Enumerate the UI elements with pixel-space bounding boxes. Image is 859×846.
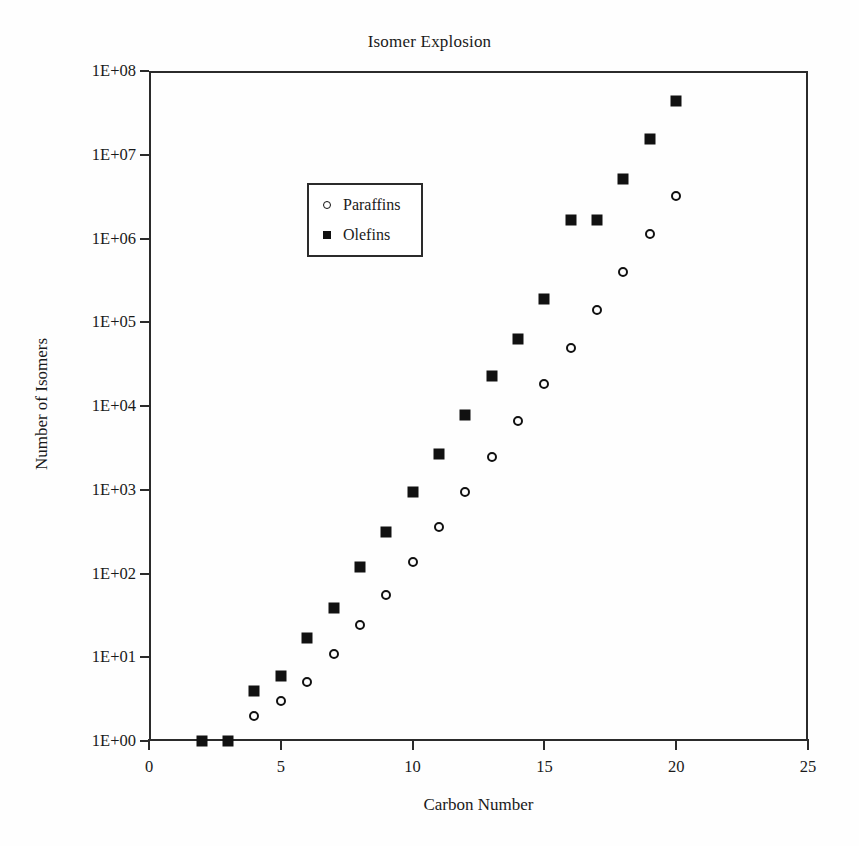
y-tick-label: 1E+05 — [92, 312, 136, 332]
y-axis-title: Number of Isomers — [32, 104, 52, 704]
y-tick-mark — [140, 573, 149, 575]
y-tick-label: 1E+07 — [92, 145, 136, 165]
data-point-paraffins — [434, 522, 444, 532]
data-point-paraffins — [355, 620, 365, 630]
data-point-paraffins — [408, 557, 418, 567]
y-tick-mark — [140, 656, 149, 658]
data-point-olefins — [539, 294, 550, 305]
plot-area: 1E+001E+011E+021E+031E+041E+051E+061E+07… — [149, 71, 808, 741]
axis-line-right — [806, 71, 808, 741]
y-tick-label: 1E+08 — [92, 61, 136, 81]
data-point-olefins — [460, 410, 471, 421]
data-point-paraffins — [329, 649, 339, 659]
data-point-olefins — [381, 527, 392, 538]
data-point-olefins — [671, 96, 682, 107]
data-point-olefins — [513, 334, 524, 345]
data-point-paraffins — [249, 711, 259, 721]
data-point-olefins — [592, 215, 603, 226]
x-tick-label: 10 — [404, 757, 421, 777]
legend-item-paraffins: Paraffins — [319, 193, 400, 217]
data-point-paraffins — [302, 677, 312, 687]
y-tick-label: 1E+04 — [92, 396, 136, 416]
axis-line-top — [149, 71, 808, 73]
data-point-olefins — [249, 685, 260, 696]
data-point-paraffins — [460, 487, 470, 497]
x-tick-mark — [148, 739, 150, 750]
y-tick-label: 1E+06 — [92, 229, 136, 249]
axis-line-left — [149, 71, 151, 741]
y-tick-mark — [140, 405, 149, 407]
axis-line-bottom — [149, 739, 808, 741]
y-tick-mark — [140, 321, 149, 323]
data-point-paraffins — [566, 343, 576, 353]
x-tick-label: 5 — [277, 757, 285, 777]
data-point-paraffins — [487, 452, 497, 462]
x-tick-label: 15 — [536, 757, 553, 777]
y-tick-label: 1E+02 — [92, 564, 136, 584]
legend-label: Olefins — [343, 226, 390, 244]
legend: ParaffinsOlefins — [307, 183, 423, 257]
y-tick-mark — [140, 70, 149, 72]
x-tick-label: 25 — [800, 757, 817, 777]
y-tick-mark — [140, 154, 149, 156]
data-point-paraffins — [539, 379, 549, 389]
filled-square-icon — [319, 231, 335, 239]
open-circle-icon — [319, 201, 335, 209]
data-point-olefins — [302, 632, 313, 643]
data-point-olefins — [407, 487, 418, 498]
x-axis-title: Carbon Number — [149, 795, 808, 815]
x-tick-mark — [807, 739, 809, 750]
data-point-olefins — [223, 736, 234, 747]
data-point-paraffins — [671, 191, 681, 201]
data-point-paraffins — [381, 590, 391, 600]
data-point-olefins — [328, 602, 339, 613]
x-tick-mark — [412, 739, 414, 750]
data-point-paraffins — [645, 229, 655, 239]
data-point-olefins — [196, 736, 207, 747]
data-point-olefins — [565, 215, 576, 226]
data-point-paraffins — [592, 305, 602, 315]
x-tick-mark — [543, 739, 545, 750]
data-point-olefins — [618, 174, 629, 185]
y-tick-mark — [140, 489, 149, 491]
data-point-olefins — [644, 133, 655, 144]
y-tick-label: 1E+03 — [92, 480, 136, 500]
y-tick-mark — [140, 238, 149, 240]
data-point-olefins — [433, 449, 444, 460]
x-tick-mark — [675, 739, 677, 750]
y-tick-label: 1E+00 — [92, 731, 136, 751]
legend-label: Paraffins — [343, 196, 400, 214]
y-tick-label: 1E+01 — [92, 647, 136, 667]
x-tick-label: 0 — [145, 757, 153, 777]
data-point-paraffins — [276, 696, 286, 706]
page-title: Isomer Explosion — [0, 32, 859, 52]
chart-page: Isomer Explosion Number of Isomers 1E+00… — [0, 0, 859, 846]
data-point-olefins — [354, 562, 365, 573]
x-tick-mark — [280, 739, 282, 750]
data-point-paraffins — [618, 267, 628, 277]
x-tick-label: 20 — [668, 757, 685, 777]
legend-item-olefins: Olefins — [319, 223, 390, 247]
data-point-olefins — [275, 670, 286, 681]
data-point-paraffins — [513, 416, 523, 426]
data-point-olefins — [486, 370, 497, 381]
